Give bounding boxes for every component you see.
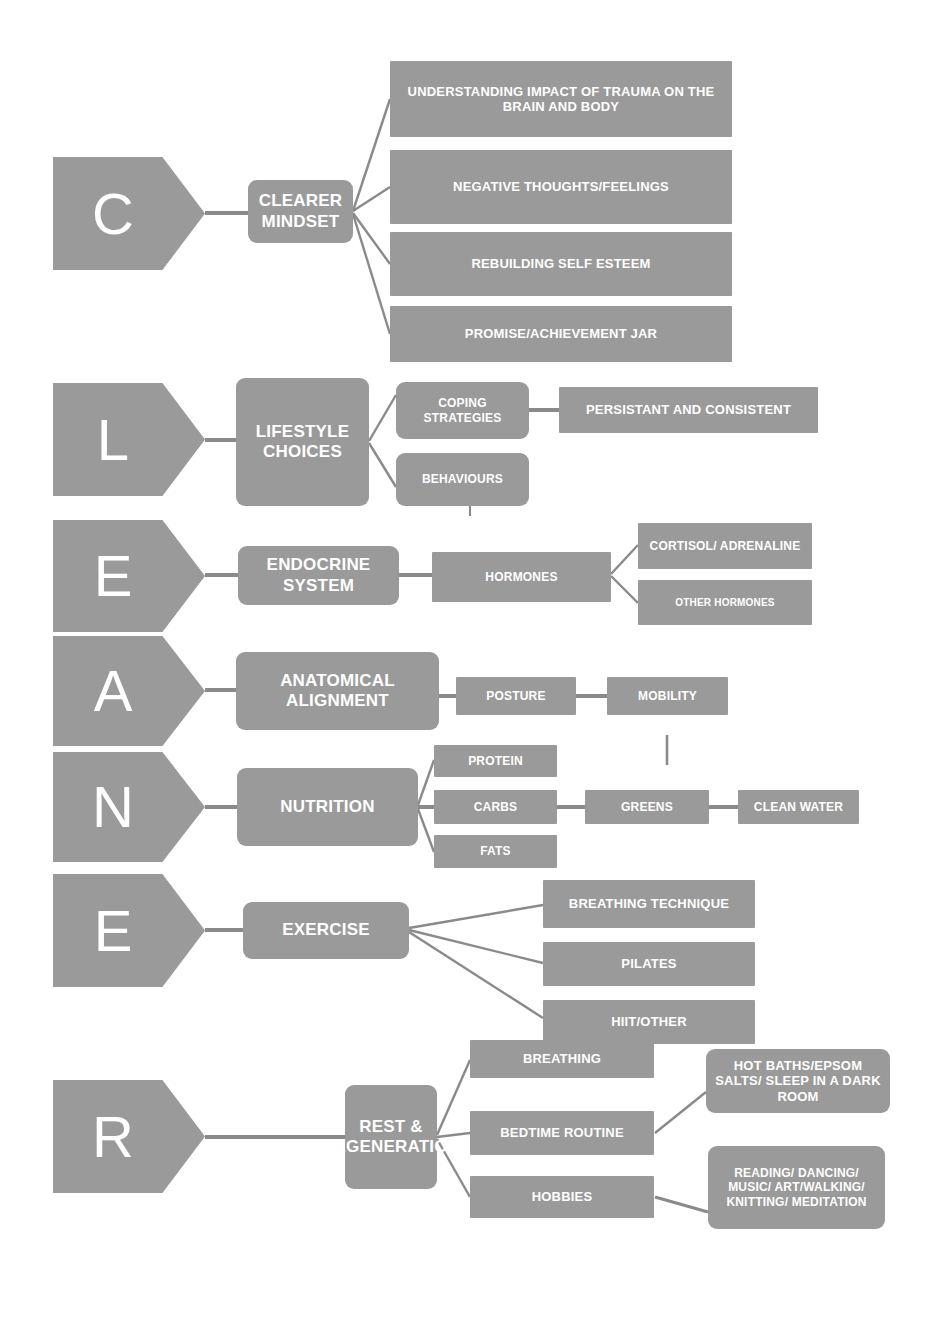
leaf-coping-strategies[interactable]: COPING STRATEGIES — [396, 382, 529, 439]
leaf-persistant-and-consistent[interactable]: PERSISTANT AND CONSISTENT — [559, 387, 818, 433]
letter-chevron-e-exercise[interactable]: E — [53, 874, 205, 987]
hub-clearer-mindset-label: CLEARER MINDSET — [253, 191, 348, 231]
leaf-negative-thoughts-feelings[interactable]: NEGATIVE THOUGHTS/FEELINGS — [390, 150, 732, 224]
leaf-carbs-label: CARBS — [474, 800, 518, 814]
hub-lifestyle-choices[interactable]: LIFESTYLE CHOICES — [236, 378, 369, 506]
letter-chevron-l-label: L — [97, 411, 129, 469]
hub-rest-regeneration-label: REST & REGENERATION — [322, 1117, 460, 1157]
leaf-greens-label: GREENS — [621, 800, 673, 814]
leaf-hot-baths-epsom-salts-label: HOT BATHS/EPSOM SALTS/ SLEEP IN A DARK R… — [711, 1058, 885, 1104]
leaf-hormones-label: HORMONES — [485, 570, 557, 584]
leaf-breathing-technique-label: BREATHING TECHNIQUE — [569, 896, 729, 911]
leaf-hormones[interactable]: HORMONES — [432, 552, 611, 602]
leaf-mobility-label: MOBILITY — [638, 689, 697, 703]
link-n-protein — [418, 760, 434, 805]
leaf-understanding-impact-of-trauma[interactable]: UNDERSTANDING IMPACT OF TRAUMA ON THE BR… — [390, 61, 732, 137]
hub-exercise-label: EXERCISE — [282, 920, 370, 940]
hub-nutrition[interactable]: NUTRITION — [237, 768, 418, 846]
leaf-reading-dancing-music[interactable]: READING/ DANCING/ MUSIC/ ART/WALKING/ KN… — [708, 1146, 885, 1229]
leaf-promise-achievement-jar-label: PROMISE/ACHIEVEMENT JAR — [465, 326, 657, 341]
hub-rest-regeneration[interactable]: REST & REGENERATION — [345, 1085, 437, 1189]
leaf-hot-baths-epsom-salts[interactable]: HOT BATHS/EPSOM SALTS/ SLEEP IN A DARK R… — [706, 1049, 890, 1113]
leaf-bedtime-routine[interactable]: BEDTIME ROUTINE — [470, 1111, 654, 1155]
leaf-behaviours-label: BEHAVIOURS — [422, 472, 503, 486]
leaf-pilates-label: PILATES — [621, 956, 676, 971]
letter-chevron-a[interactable]: A — [53, 636, 205, 746]
leaf-hiit-other[interactable]: HIIT/OTHER — [543, 1000, 755, 1044]
leaf-posture[interactable]: POSTURE — [456, 677, 576, 715]
leaf-cortisol-adrenaline-label: CORTISOL/ ADRENALINE — [650, 539, 801, 553]
link-c-leaf-4 — [353, 214, 390, 334]
letter-chevron-e-exercise-label: E — [94, 902, 133, 960]
link-c-leaf-2 — [353, 187, 390, 211]
letter-chevron-a-label: A — [94, 662, 133, 720]
leaf-promise-achievement-jar[interactable]: PROMISE/ACHIEVEMENT JAR — [390, 306, 732, 362]
link-c-leaf-3 — [353, 213, 390, 264]
link-e2-hiit — [409, 932, 543, 1018]
letter-chevron-n-label: N — [92, 778, 134, 836]
link-r-bedtime-hotbaths — [655, 1092, 706, 1133]
link-e2-pilates — [409, 930, 543, 963]
hub-endocrine-system-label: ENDOCRINE SYSTEM — [243, 555, 394, 595]
hub-clearer-mindset[interactable]: CLEARER MINDSET — [248, 180, 353, 243]
letter-chevron-e-endocrine-label: E — [94, 547, 133, 605]
leaf-carbs[interactable]: CARBS — [434, 790, 557, 824]
letter-chevron-c[interactable]: C — [53, 157, 205, 270]
hub-anatomical-alignment[interactable]: ANATOMICAL ALIGNMENT — [236, 652, 439, 730]
leaf-mobility[interactable]: MOBILITY — [607, 677, 728, 715]
letter-chevron-n[interactable]: N — [53, 752, 205, 862]
leaf-other-hormones-label: OTHER HORMONES — [675, 597, 774, 609]
leaf-fats-label: FATS — [480, 844, 511, 858]
leaf-pilates[interactable]: PILATES — [543, 942, 755, 986]
leaf-negative-thoughts-feelings-label: NEGATIVE THOUGHTS/FEELINGS — [453, 179, 669, 194]
letter-chevron-c-label: C — [92, 185, 134, 243]
leaf-greens[interactable]: GREENS — [585, 790, 709, 824]
link-e1-cortisol — [611, 545, 638, 574]
leaf-coping-strategies-label: COPING STRATEGIES — [401, 396, 524, 424]
link-e2-breathing — [409, 905, 543, 928]
leaf-hobbies-label: HOBBIES — [532, 1189, 593, 1204]
link-c-leaf-1 — [353, 99, 390, 211]
leaf-breathing-technique[interactable]: BREATHING TECHNIQUE — [543, 880, 755, 928]
leaf-cortisol-adrenaline[interactable]: CORTISOL/ ADRENALINE — [638, 523, 812, 569]
link-e1-other-hormones — [611, 576, 638, 603]
letter-chevron-r[interactable]: R — [53, 1080, 205, 1193]
link-r-hobbies-reading — [655, 1197, 708, 1212]
leaf-hiit-other-label: HIIT/OTHER — [611, 1014, 687, 1029]
leaf-rebuilding-self-esteem-label: REBUILDING SELF ESTEEM — [471, 256, 650, 271]
letter-chevron-e-endocrine[interactable]: E — [53, 520, 205, 632]
letter-chevron-l[interactable]: L — [53, 383, 205, 496]
leaf-behaviours[interactable]: BEHAVIOURS — [396, 453, 529, 506]
hub-endocrine-system[interactable]: ENDOCRINE SYSTEM — [238, 546, 399, 605]
link-l-leaf-1 — [369, 395, 396, 441]
hub-nutrition-label: NUTRITION — [280, 797, 374, 817]
diagram-canvas: C CLEARER MINDSET UNDERSTANDING IMPACT O… — [0, 0, 925, 1322]
leaf-understanding-impact-of-trauma-label: UNDERSTANDING IMPACT OF TRAUMA ON THE BR… — [395, 84, 727, 115]
link-l-leaf-2 — [369, 443, 396, 487]
leaf-persistant-and-consistent-label: PERSISTANT AND CONSISTENT — [586, 402, 791, 417]
hub-lifestyle-choices-label: LIFESTYLE CHOICES — [241, 422, 364, 462]
link-n-fats — [418, 809, 434, 852]
hub-exercise[interactable]: EXERCISE — [243, 902, 409, 959]
leaf-other-hormones[interactable]: OTHER HORMONES — [638, 580, 812, 625]
leaf-fats[interactable]: FATS — [434, 835, 557, 868]
leaf-clean-water-label: CLEAN WATER — [754, 800, 843, 814]
leaf-reading-dancing-music-label: READING/ DANCING/ MUSIC/ ART/WALKING/ KN… — [713, 1166, 880, 1208]
leaf-protein[interactable]: PROTEIN — [434, 745, 557, 777]
leaf-breathing-label: BREATHING — [523, 1051, 601, 1066]
leaf-posture-label: POSTURE — [486, 689, 545, 703]
hub-anatomical-alignment-label: ANATOMICAL ALIGNMENT — [241, 671, 434, 711]
leaf-breathing[interactable]: BREATHING — [470, 1040, 654, 1078]
leaf-rebuilding-self-esteem[interactable]: REBUILDING SELF ESTEEM — [390, 232, 732, 296]
leaf-clean-water[interactable]: CLEAN WATER — [738, 790, 859, 824]
leaf-hobbies[interactable]: HOBBIES — [470, 1176, 654, 1218]
leaf-bedtime-routine-label: BEDTIME ROUTINE — [500, 1125, 624, 1140]
letter-chevron-r-label: R — [92, 1108, 134, 1166]
leaf-protein-label: PROTEIN — [468, 754, 523, 768]
